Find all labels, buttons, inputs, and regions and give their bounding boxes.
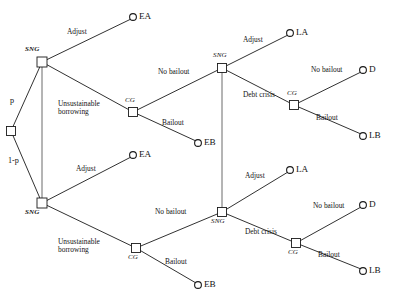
- node-label-cg-lower-right: CG: [288, 249, 298, 257]
- terminal-node-ea-lower: [130, 152, 137, 159]
- edge-label-debt-crisis-upper: Debt crisis: [243, 91, 275, 99]
- terminal-node-la-upper: [287, 30, 294, 37]
- terminal-node-d-lower: [360, 202, 367, 209]
- terminal-node-eb-upper: [195, 140, 202, 147]
- decision-nodes: [7, 57, 301, 253]
- edge-label-bailout-upper-left: Bailout: [162, 119, 184, 127]
- node-root-nature: [7, 127, 16, 136]
- edge-label-adjust-upper: Adjust: [67, 28, 87, 36]
- terminal-label-la-upper: LA: [296, 27, 308, 37]
- node-label-sng-lower: SNG: [25, 209, 40, 217]
- edge-label-bailout-upper-right: Bailout: [316, 114, 338, 122]
- node-sng-mid-lower: [218, 208, 227, 217]
- edge-label-adjust-lower-right: Adjust: [245, 172, 265, 180]
- edge-sng-mid-to-cg-right: [222, 68, 294, 105]
- terminal-node-ea-upper: [130, 14, 137, 21]
- node-sng-upper: [37, 57, 47, 67]
- edges-lower-subtree: [42, 157, 361, 283]
- terminal-label-d-lower: D: [369, 199, 376, 209]
- edge-label-no-bailout-upper-right: No bailout: [311, 66, 342, 74]
- node-label-sng-upper: SNG: [25, 46, 40, 54]
- edge-label-no-bailout-upper-left: No bailout: [158, 68, 189, 76]
- edges-upper-subtree: [42, 19, 361, 141]
- node-cg-upper-right: [290, 101, 299, 110]
- node-cg-lower-right: [292, 239, 301, 248]
- probability-label-upper: p: [10, 96, 14, 105]
- edge-cg-right-to-d: [294, 72, 361, 105]
- terminal-label-lb-upper: LB: [369, 130, 381, 140]
- node-sng-lower: [37, 198, 47, 208]
- terminal-label-ea-lower: EA: [139, 149, 151, 159]
- node-label-cg-upper-right: CG: [287, 90, 297, 98]
- terminal-label-eb-lower: EB: [204, 279, 216, 289]
- terminal-node-d-upper: [360, 67, 367, 74]
- probability-label-lower: 1-p: [8, 156, 19, 165]
- edge-cg-lower-to-sng-mid: [136, 212, 222, 248]
- terminal-node-eb-lower: [195, 282, 202, 289]
- node-cg-lower-left: [132, 244, 141, 253]
- edge-label-debt-crisis-lower: Debt crisis: [245, 228, 277, 236]
- edge-label-adjust-lower: Adjust: [76, 165, 96, 173]
- terminal-label-eb-upper: EB: [204, 137, 216, 147]
- edge-label-bailout-lower-right: Bailout: [318, 251, 340, 259]
- node-label-sng-mid-upper: SNG: [213, 52, 227, 60]
- node-label-cg-upper-left: CG: [125, 97, 135, 105]
- terminal-node-lb-lower: [360, 268, 367, 275]
- terminal-label-lb-lower: LB: [369, 265, 381, 275]
- edge-label-unsustainable-upper: Unsustainable borrowing: [58, 100, 118, 117]
- node-sng-mid-upper: [218, 64, 227, 73]
- edge-label-bailout-lower-left: Bailout: [165, 258, 187, 266]
- terminal-label-d-upper: D: [369, 64, 376, 74]
- terminal-node-la-lower: [287, 167, 294, 174]
- node-label-cg-lower-left: CG: [128, 254, 138, 262]
- game-tree-diagram: p 1-p SNG SNG CG CG SNG SNG CG CG Adjust…: [0, 0, 393, 300]
- edge-root-to-sng-lower: [11, 131, 42, 203]
- edge-root-to-sng-upper: [11, 62, 42, 131]
- edge-cg-lower-right-to-d: [296, 207, 361, 243]
- edge-label-no-bailout-lower-right: No bailout: [313, 202, 344, 210]
- edge-sng-upper-to-ea: [42, 19, 131, 62]
- edge-label-no-bailout-lower-left: No bailout: [155, 208, 186, 216]
- edge-label-adjust-upper-right: Adjust: [243, 36, 263, 44]
- node-cg-upper-left: [129, 108, 138, 117]
- terminal-label-ea-upper: EA: [139, 11, 151, 21]
- terminal-label-la-lower: LA: [296, 164, 308, 174]
- edge-label-unsustainable-lower: Unsustainable borrowing: [58, 238, 118, 255]
- node-label-sng-mid-lower: SNG: [211, 218, 225, 226]
- terminal-node-lb-upper: [360, 133, 367, 140]
